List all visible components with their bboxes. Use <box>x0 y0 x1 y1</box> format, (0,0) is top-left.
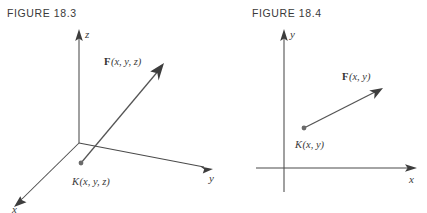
right-y-axis-label: y <box>289 28 295 40</box>
right-x-axis-label: x <box>408 173 414 185</box>
left-x-axis-label: x <box>11 203 17 213</box>
right-vector-label-args: (x, y) <box>349 71 371 83</box>
left-vector-label-args: (x, y, z) <box>111 56 142 68</box>
left-y-axis-line <box>79 143 204 167</box>
left-point-k-dot <box>79 161 84 166</box>
right-point-k-dot <box>302 126 307 131</box>
left-point-label: K(x, y, z) <box>71 176 110 188</box>
left-x-axis-line <box>22 143 79 199</box>
left-y-axis-label: y <box>208 172 214 184</box>
right-vector-line <box>304 92 375 128</box>
right-point-label: K(x, y) <box>294 139 325 151</box>
right-vector-label-bold: F <box>342 71 348 82</box>
figure-left-group: z y x F(x, y, z) K(x, y, z) <box>11 28 214 213</box>
figures-vector-graphics: z y x F(x, y, z) K(x, y, z) <box>0 0 427 213</box>
left-point-label-args: (x, y, z) <box>80 176 111 188</box>
left-vector-label: F(x, y, z) <box>104 56 142 68</box>
left-z-axis-label: z <box>84 28 90 40</box>
figure-board: FIGURE 18.3 FIGURE 18.4 z y x F(x, y, <box>0 0 427 213</box>
right-vector-label: F(x, y) <box>342 71 371 83</box>
right-point-label-args: (x, y) <box>303 139 325 151</box>
figure-right-group: y x F(x, y) K(x, y) <box>256 28 417 192</box>
left-vector-label-bold: F <box>104 56 110 67</box>
left-vector-line <box>81 70 159 163</box>
